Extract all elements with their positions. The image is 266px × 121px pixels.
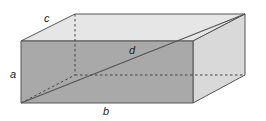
rectangular-prism-diagram: c d a b [0, 0, 266, 121]
label-c: c [44, 12, 50, 24]
label-a: a [10, 68, 16, 80]
label-d: d [129, 44, 136, 56]
label-b: b [103, 105, 109, 117]
front-face [21, 41, 193, 103]
